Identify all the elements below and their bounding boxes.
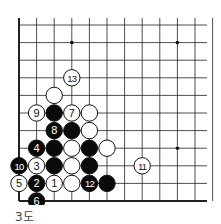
stone-disc <box>64 175 80 191</box>
white-stone <box>99 140 115 156</box>
stone-disc <box>81 122 97 138</box>
move-number: 12 <box>85 178 94 189</box>
move-number: 5 <box>16 177 22 189</box>
go-board: 13978410311521126 <box>0 0 221 205</box>
black-stone: 2 <box>28 175 44 191</box>
move-number: 2 <box>34 177 40 189</box>
white-stone <box>64 158 80 174</box>
black-stone <box>46 158 62 174</box>
stone-disc <box>81 105 97 121</box>
stones: 13978410311521126 <box>11 70 151 205</box>
white-stone: 1 <box>46 175 62 191</box>
black-stone: 8 <box>46 122 62 138</box>
stone-disc <box>64 158 80 174</box>
white-stone: 5 <box>11 175 27 191</box>
white-stone: 3 <box>28 158 44 174</box>
stone-disc <box>81 140 97 156</box>
stone-disc <box>64 122 80 138</box>
move-number: 8 <box>51 124 57 136</box>
stone-disc <box>64 140 80 156</box>
move-number: 10 <box>15 161 24 172</box>
black-stone <box>46 140 62 156</box>
black-stone <box>99 175 115 191</box>
move-number: 6 <box>34 195 40 205</box>
black-stone: 10 <box>11 158 27 174</box>
black-stone: 4 <box>28 140 44 156</box>
black-stone: 12 <box>81 175 97 191</box>
move-number: 11 <box>138 161 147 172</box>
white-stone: 13 <box>64 70 80 86</box>
move-number: 9 <box>34 107 40 119</box>
black-stone <box>46 105 62 121</box>
stone-disc <box>99 140 115 156</box>
star-point <box>176 146 180 150</box>
stone-disc <box>46 87 62 103</box>
white-stone: 7 <box>64 105 80 121</box>
star-point <box>70 41 74 45</box>
stone-disc <box>46 158 62 174</box>
white-stone <box>81 105 97 121</box>
move-number: 3 <box>34 160 40 172</box>
white-stone: 9 <box>28 105 44 121</box>
white-stone <box>46 87 62 103</box>
stone-disc <box>46 105 62 121</box>
stone-disc <box>99 175 115 191</box>
white-stone <box>64 140 80 156</box>
star-point <box>176 41 180 45</box>
white-stone: 11 <box>134 158 150 174</box>
diagram-caption: 3도 <box>15 207 34 224</box>
stone-disc <box>46 140 62 156</box>
white-stone <box>64 175 80 191</box>
move-number: 7 <box>69 107 75 119</box>
black-stone <box>81 158 97 174</box>
move-number: 4 <box>34 142 40 154</box>
move-number: 13 <box>67 73 76 84</box>
stone-disc <box>81 158 97 174</box>
black-stone <box>64 122 80 138</box>
white-stone <box>81 122 97 138</box>
black-stone <box>81 140 97 156</box>
move-number: 1 <box>51 177 57 189</box>
black-stone: 6 <box>28 193 44 205</box>
